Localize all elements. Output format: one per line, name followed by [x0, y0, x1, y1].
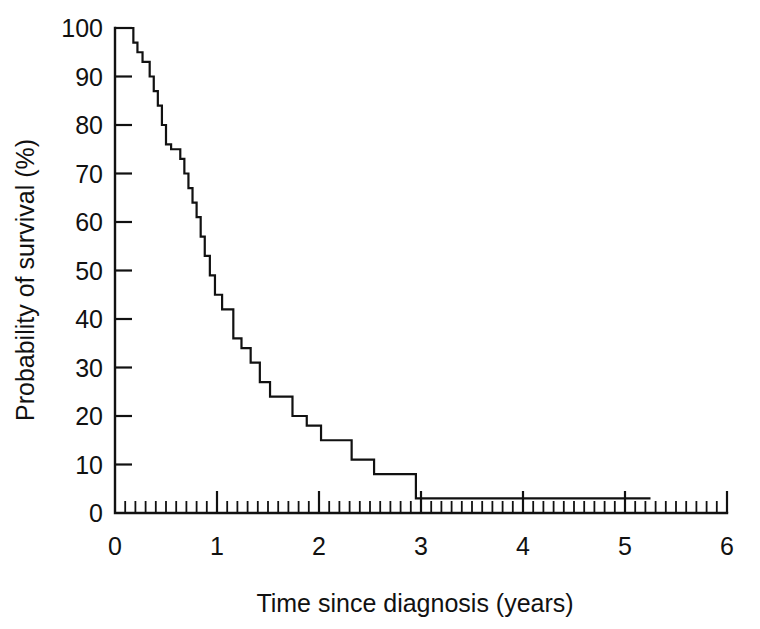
axis-ticks — [115, 28, 727, 513]
survival-curve-path — [115, 28, 651, 498]
survival-step-curve — [115, 28, 651, 498]
x-tick-label: 2 — [312, 532, 326, 560]
x-tick-label: 4 — [516, 532, 530, 560]
y-tick-label: 50 — [75, 257, 103, 285]
y-tick-label: 80 — [75, 111, 103, 139]
y-tick-label: 60 — [75, 208, 103, 236]
axes — [115, 28, 727, 513]
x-tick-label: 1 — [210, 532, 224, 560]
kaplan-meier-plot: 01020304050607080901000123456 Time since… — [0, 0, 760, 629]
y-tick-label: 30 — [75, 354, 103, 382]
y-tick-label: 40 — [75, 305, 103, 333]
axis-tick-labels: 01020304050607080901000123456 — [61, 14, 734, 560]
y-tick-label: 100 — [61, 14, 103, 42]
x-tick-label: 6 — [720, 532, 734, 560]
x-tick-label: 3 — [414, 532, 428, 560]
x-tick-label: 5 — [618, 532, 632, 560]
survival-curve-figure: 01020304050607080901000123456 Time since… — [0, 0, 760, 629]
y-tick-label: 90 — [75, 63, 103, 91]
y-axis-title: Probability of survival (%) — [11, 139, 39, 421]
y-tick-label: 0 — [89, 499, 103, 527]
x-axis-title: Time since diagnosis (years) — [256, 589, 573, 617]
x-tick-label: 0 — [108, 532, 122, 560]
y-tick-label: 10 — [75, 451, 103, 479]
y-tick-label: 70 — [75, 160, 103, 188]
y-tick-label: 20 — [75, 402, 103, 430]
